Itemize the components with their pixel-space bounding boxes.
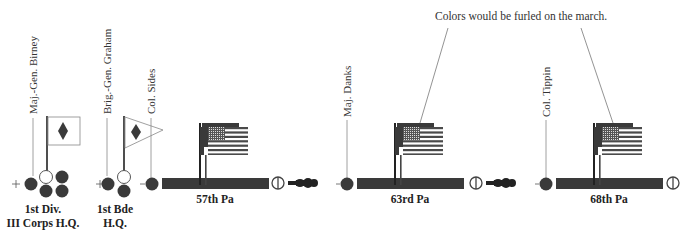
staff-circle-open bbox=[40, 171, 53, 184]
brigade-hq-label-line1: 1st Bde bbox=[97, 203, 133, 215]
gun-limber-icon bbox=[486, 178, 516, 188]
us-flag-icon bbox=[199, 123, 248, 185]
commander-label-birney: Maj.-Gen. Birney bbox=[27, 36, 39, 114]
regiment-label: 57th Pa bbox=[196, 193, 234, 205]
regiment-57th-pa: Col. Sides 57th Pa bbox=[140, 69, 318, 205]
order-of-march-diagram: Colors would be furled on the march. Maj… bbox=[0, 0, 686, 231]
regiment-63rd-pa: Maj. Danks 63rd Pa bbox=[336, 66, 516, 205]
us-flag-icon bbox=[394, 123, 443, 185]
commander-label-tippin: Col. Tippin bbox=[540, 66, 552, 117]
brigade-hq-label-line2: H.Q. bbox=[103, 217, 127, 229]
regiment-68th-pa: Col. Tippin 68th Pa bbox=[535, 66, 679, 205]
commander-label-sides: Col. Sides bbox=[145, 69, 157, 114]
officer-circle bbox=[341, 178, 354, 191]
annotation-leader-68th bbox=[581, 28, 613, 123]
division-hq-label-line1: 1st Div. bbox=[25, 203, 62, 215]
wheel-icon bbox=[272, 177, 284, 189]
commander-label-danks: Maj. Danks bbox=[341, 66, 353, 117]
wheel-icon bbox=[667, 177, 679, 189]
brigade-pennant bbox=[125, 117, 163, 148]
staff-circle bbox=[118, 185, 131, 198]
regiment-line-bar bbox=[556, 178, 663, 189]
regiment-line-bar bbox=[357, 178, 464, 189]
officer-circle bbox=[540, 178, 553, 191]
division-hq-group: Maj.-Gen. Birney 1st Div. III Corps H.Q. bbox=[7, 36, 80, 230]
regiment-label: 63rd Pa bbox=[391, 193, 430, 205]
division-hq-label-line2: III Corps H.Q. bbox=[7, 217, 80, 230]
officer-circle bbox=[146, 178, 159, 191]
us-flag-icon bbox=[593, 123, 642, 185]
regiment-label: 68th Pa bbox=[590, 193, 628, 205]
staff-circle-open bbox=[118, 171, 131, 184]
officer-circle bbox=[25, 178, 38, 191]
staff-circle bbox=[56, 171, 69, 184]
wheel-icon bbox=[470, 177, 482, 189]
brigade-hq-group: Brig.-Gen. Graham 1st Bde H.Q. bbox=[96, 28, 163, 229]
commander-label-graham: Brig.-Gen. Graham bbox=[101, 28, 113, 114]
officer-circle bbox=[102, 178, 115, 191]
staff-circle bbox=[56, 185, 69, 198]
staff-circle bbox=[40, 185, 53, 198]
annotation-note: Colors would be furled on the march. bbox=[435, 10, 607, 22]
regiment-line-bar bbox=[162, 178, 269, 189]
annotation-leader-63rd bbox=[420, 28, 448, 123]
gun-limber-icon bbox=[288, 178, 318, 188]
